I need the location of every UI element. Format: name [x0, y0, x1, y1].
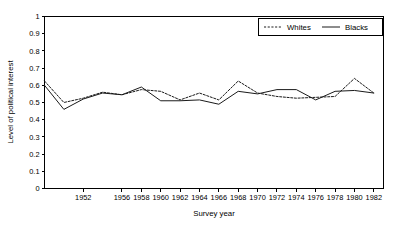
x-tick-label: 1962: [172, 193, 188, 202]
x-tick-label: 1976: [307, 193, 323, 202]
legend-label-whites: Whites: [287, 23, 311, 32]
x-tick-label: 1964: [191, 193, 207, 202]
x-tick-label: 1972: [269, 193, 285, 202]
plot-frame: [45, 17, 384, 189]
chart-figure: 00.10.20.30.40.50.60.70.80.91 1952195619…: [0, 0, 399, 234]
y-tick-label: 0: [35, 184, 39, 193]
x-axis-title: Survey year: [193, 209, 235, 218]
x-tick-label: 1966: [211, 193, 227, 202]
y-tick-label: 0.5: [29, 98, 39, 107]
y-axis-ticks: 00.10.20.30.40.50.60.70.80.91: [29, 12, 44, 193]
y-tick-label: 0.2: [29, 150, 39, 159]
y-tick-label: 1: [35, 12, 39, 21]
y-tick-label: 0.3: [29, 133, 39, 142]
x-tick-label: 1970: [249, 193, 265, 202]
x-tick-label: 1960: [153, 193, 169, 202]
data-series-group: [45, 78, 374, 109]
line-chart: 00.10.20.30.40.50.60.70.80.91 1952195619…: [0, 0, 399, 234]
x-tick-label: 1974: [288, 193, 304, 202]
y-tick-label: 0.8: [29, 47, 39, 56]
y-tick-label: 0.4: [29, 115, 39, 124]
legend-label-blacks: Blacks: [345, 23, 368, 32]
x-tick-label: 1978: [327, 193, 343, 202]
chart-legend: Whites Blacks: [259, 19, 383, 36]
x-tick-label: 1952: [75, 193, 91, 202]
series-line-whites: [45, 78, 374, 102]
y-axis-title: Level of political interest: [6, 60, 15, 144]
x-axis-ticks: 1952195619581960196219641966196819701972…: [75, 189, 382, 202]
x-tick-label: 1958: [133, 193, 149, 202]
x-tick-label: 1982: [366, 193, 382, 202]
x-tick-label: 1956: [114, 193, 130, 202]
y-tick-label: 0.7: [29, 64, 39, 73]
y-tick-label: 0.6: [29, 81, 39, 90]
x-tick-label: 1968: [230, 193, 246, 202]
y-tick-label: 0.1: [29, 167, 39, 176]
x-tick-label: 1980: [346, 193, 362, 202]
y-tick-label: 0.9: [29, 29, 39, 38]
